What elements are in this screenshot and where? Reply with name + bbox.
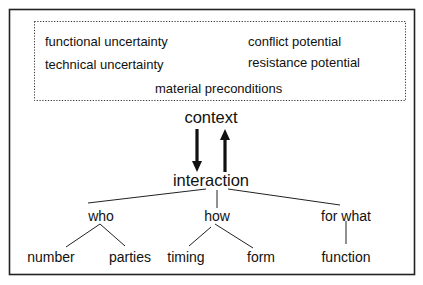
interaction-label: interaction xyxy=(173,171,249,189)
leaf-number: number xyxy=(27,249,75,265)
factor-resistance-potential: resistance potential xyxy=(248,55,360,70)
leaf-parties: parties xyxy=(109,249,151,265)
branch-for-what: for what xyxy=(321,208,371,224)
factor-technical-uncertainty: technical uncertainty xyxy=(45,57,164,72)
factor-functional-uncertainty: functional uncertainty xyxy=(45,34,168,49)
context-label: context xyxy=(184,108,238,126)
factor-conflict-potential: conflict potential xyxy=(248,34,341,49)
leaf-form: form xyxy=(247,249,275,265)
branch-who: who xyxy=(87,208,114,224)
leaf-timing: timing xyxy=(167,249,204,265)
branch-how: how xyxy=(204,208,231,224)
factor-material-preconditions: material preconditions xyxy=(155,81,283,96)
diagram-canvas: functional uncertainty technical uncerta… xyxy=(0,0,423,285)
outer-frame xyxy=(10,10,415,275)
down-arrow-icon xyxy=(192,129,202,172)
up-arrow-icon xyxy=(220,129,230,172)
leaf-function: function xyxy=(321,249,370,265)
